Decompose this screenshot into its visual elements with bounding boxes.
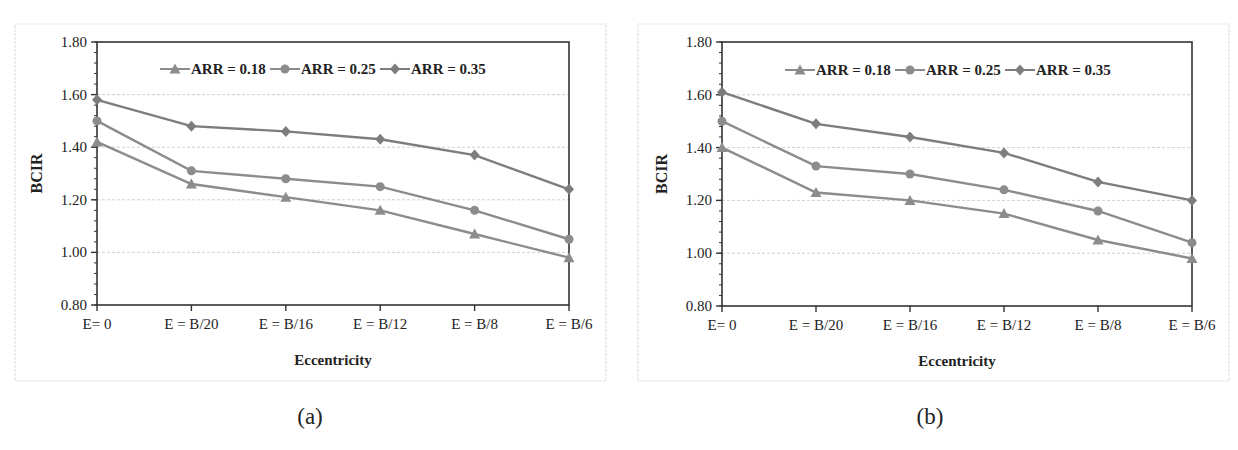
- circle-marker: [470, 206, 479, 215]
- y-tick-label: 1.20: [686, 192, 712, 208]
- y-axis-label: BCIR: [28, 153, 45, 193]
- circle-marker: [187, 166, 196, 175]
- circle-marker: [1000, 185, 1009, 194]
- x-tick-label: E= 0: [708, 317, 737, 333]
- y-tick-label: 1.40: [686, 140, 712, 156]
- legend-label: ARR = 0.25: [926, 62, 1001, 78]
- x-tick-label: E= 0: [83, 316, 112, 332]
- chart-panel-b: 0.801.001.201.401.601.80E= 0E = B/20E = …: [619, 0, 1238, 450]
- y-tick-label: 1.00: [61, 244, 87, 260]
- legend-circle-icon: [281, 65, 290, 74]
- y-tick-label: 1.80: [686, 34, 712, 50]
- y-tick-label: 1.40: [61, 139, 87, 155]
- x-axis-label: Eccentricity: [294, 352, 372, 368]
- legend: ARR = 0.18ARR = 0.25ARR = 0.35: [160, 61, 486, 77]
- circle-marker: [1188, 238, 1197, 247]
- y-tick-label: 1.00: [686, 245, 712, 261]
- x-tick-label: E = B/20: [164, 316, 218, 332]
- circle-marker: [812, 162, 821, 171]
- chart-a-svg: 0.801.001.201.401.601.80E= 0E = B/20E = …: [0, 0, 619, 450]
- legend-circle-icon: [906, 66, 915, 75]
- x-tick-label: E = B/12: [977, 317, 1031, 333]
- x-tick-label: E = B/8: [1075, 317, 1122, 333]
- x-tick-label: E = B/16: [883, 317, 938, 333]
- circle-marker: [718, 117, 727, 126]
- circle-marker: [906, 170, 915, 179]
- circle-marker: [1094, 206, 1103, 215]
- y-tick-label: 1.80: [61, 34, 87, 50]
- y-tick-label: 1.60: [61, 87, 87, 103]
- legend: ARR = 0.18ARR = 0.25ARR = 0.35: [785, 62, 1111, 78]
- circle-marker: [93, 116, 102, 125]
- legend-label: ARR = 0.18: [191, 61, 266, 77]
- circle-marker: [376, 182, 385, 191]
- x-axis-label: Eccentricity: [918, 353, 996, 369]
- legend-label: ARR = 0.18: [816, 62, 891, 78]
- y-tick-label: 0.80: [61, 297, 87, 313]
- x-tick-label: E = B/6: [546, 316, 593, 332]
- y-tick-label: 0.80: [686, 298, 712, 314]
- x-tick-label: E = B/20: [789, 317, 843, 333]
- y-tick-label: 1.60: [686, 87, 712, 103]
- y-axis-label: BCIR: [653, 154, 670, 194]
- y-tick-label: 1.20: [61, 192, 87, 208]
- chart-b-svg: 0.801.001.201.401.601.80E= 0E = B/20E = …: [619, 0, 1238, 450]
- x-tick-label: E = B/6: [1169, 317, 1216, 333]
- x-tick-label: E = B/8: [451, 316, 498, 332]
- chart-panel-a: 0.801.001.201.401.601.80E= 0E = B/20E = …: [0, 0, 619, 450]
- x-tick-label: E = B/16: [259, 316, 314, 332]
- caption-a: (a): [270, 404, 350, 430]
- legend-label: ARR = 0.35: [411, 61, 486, 77]
- legend-label: ARR = 0.35: [1036, 62, 1111, 78]
- x-tick-label: E = B/12: [353, 316, 407, 332]
- circle-marker: [281, 174, 290, 183]
- legend-label: ARR = 0.25: [301, 61, 376, 77]
- caption-b: (b): [890, 404, 970, 430]
- circle-marker: [565, 235, 574, 244]
